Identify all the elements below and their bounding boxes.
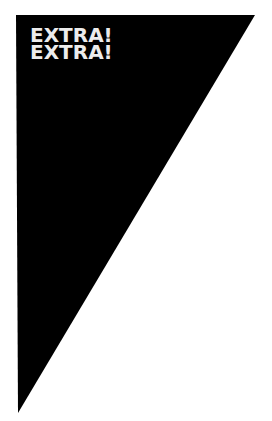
- headline: EXTRA! EXTRA!: [30, 27, 113, 61]
- headline-line-2: EXTRA!: [30, 44, 113, 61]
